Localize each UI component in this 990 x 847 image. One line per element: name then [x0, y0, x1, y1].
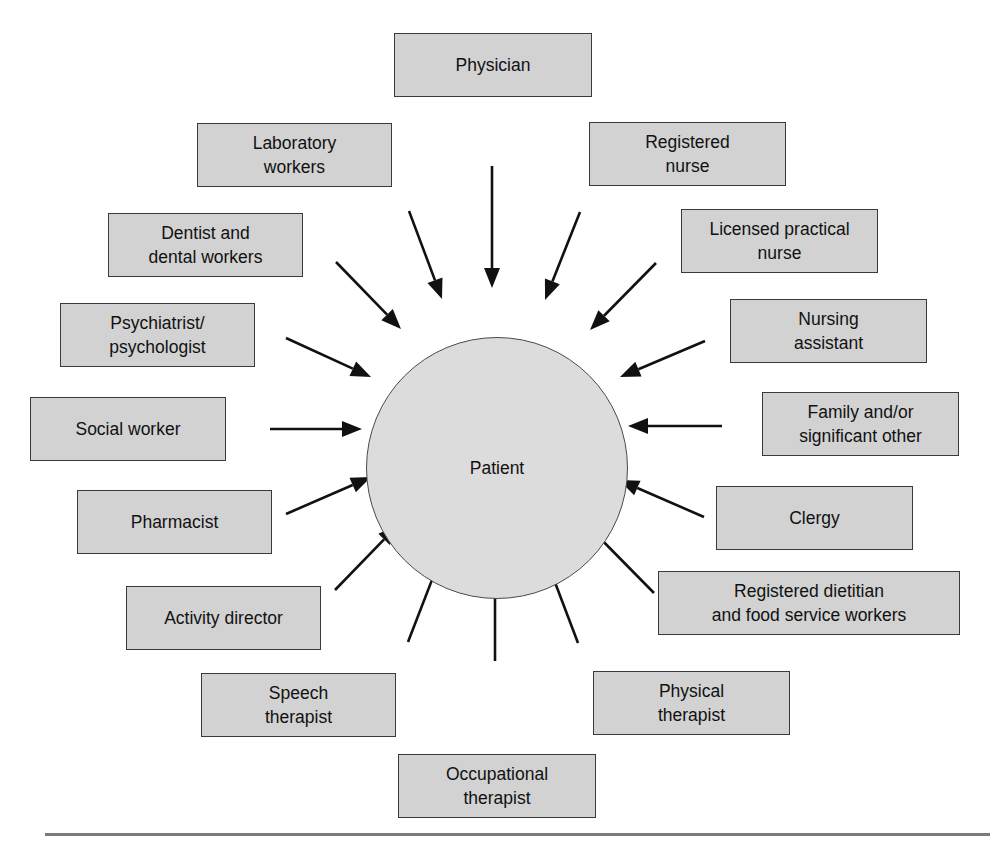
node-label: Laboratory workers	[253, 131, 337, 179]
arrow-laboratory-workers	[409, 211, 442, 299]
arrow-psychiatrist-psychologist	[286, 338, 371, 377]
node-label: Speech therapist	[265, 681, 332, 729]
node-label: Pharmacist	[131, 510, 219, 534]
arrow-pharmacist	[286, 477, 371, 514]
node-label: Social worker	[75, 417, 180, 441]
arrowhead-icon	[484, 268, 500, 288]
node-laboratory-workers: Laboratory workers	[197, 123, 392, 187]
node-activity-director: Activity director	[126, 586, 321, 650]
node-label: Occupational therapist	[446, 762, 548, 810]
node-psychiatrist-psychologist: Psychiatrist/ psychologist	[60, 303, 255, 367]
arrow-registered-nurse	[545, 212, 580, 300]
node-speech-therapist: Speech therapist	[201, 673, 396, 737]
node-label: Nursing assistant	[794, 307, 863, 355]
arrowhead-icon	[342, 421, 362, 437]
patient-label: Patient	[470, 458, 524, 479]
node-social-worker: Social worker	[30, 397, 226, 461]
arrow-social-worker	[270, 421, 362, 437]
node-label: Licensed practical nurse	[709, 217, 849, 265]
bottom-rule	[45, 833, 990, 836]
node-dentist-dental-workers: Dentist and dental workers	[108, 213, 303, 277]
arrow-family-significant-other	[628, 418, 722, 434]
node-nursing-assistant: Nursing assistant	[730, 299, 927, 363]
node-physical-therapist: Physical therapist	[593, 671, 790, 735]
node-pharmacist: Pharmacist	[77, 490, 272, 554]
arrowhead-icon	[628, 418, 648, 434]
arrow-clergy	[619, 480, 704, 517]
node-label: Psychiatrist/ psychologist	[109, 311, 205, 359]
node-licensed-practical-nurse: Licensed practical nurse	[681, 209, 878, 273]
arrowhead-icon	[620, 362, 642, 377]
node-label: Physician	[456, 53, 531, 77]
node-family-significant-other: Family and/or significant other	[762, 392, 959, 456]
arrowhead-icon	[349, 361, 371, 377]
patient-circle: Patient	[366, 337, 628, 599]
node-clergy: Clergy	[716, 486, 913, 550]
arrow-dentist-dental-workers	[336, 262, 401, 329]
care-team-diagram: Patient PhysicianRegistered nurseLicense…	[0, 0, 990, 847]
node-label: Registered nurse	[645, 130, 730, 178]
node-label: Registered dietitian and food service wo…	[712, 579, 907, 627]
arrow-physician	[484, 166, 500, 288]
arrowhead-icon	[545, 278, 560, 300]
node-label: Dentist and dental workers	[149, 221, 263, 269]
arrow-licensed-practical-nurse	[590, 263, 656, 330]
node-label: Clergy	[789, 506, 840, 530]
node-registered-nurse: Registered nurse	[589, 122, 786, 186]
arrow-nursing-assistant	[620, 341, 705, 377]
node-registered-dietitian: Registered dietitian and food service wo…	[658, 571, 960, 635]
node-occupational-therapist: Occupational therapist	[398, 754, 596, 818]
node-label: Family and/or significant other	[799, 400, 922, 448]
node-physician: Physician	[394, 33, 592, 97]
node-label: Activity director	[164, 606, 283, 630]
arrowhead-icon	[427, 277, 442, 299]
node-label: Physical therapist	[658, 679, 725, 727]
